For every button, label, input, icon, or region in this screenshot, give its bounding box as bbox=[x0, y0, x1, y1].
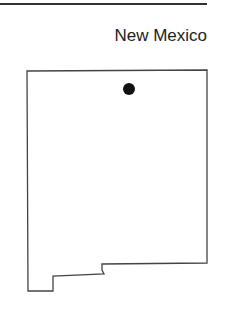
state-outline bbox=[27, 70, 207, 291]
location-marker bbox=[123, 83, 135, 95]
state-map bbox=[0, 0, 229, 324]
